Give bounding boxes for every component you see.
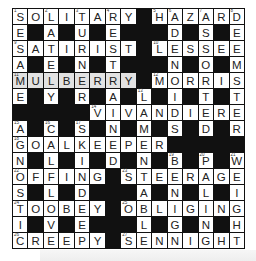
- grid-cell[interactable]: E: [168, 41, 182, 56]
- grid-cell[interactable]: E: [137, 233, 151, 248]
- grid-cell[interactable]: E: [59, 233, 73, 248]
- grid-cell[interactable]: U: [28, 73, 42, 88]
- grid-cell[interactable]: T: [121, 41, 135, 56]
- grid-cell[interactable]: E: [75, 73, 89, 88]
- grid-cell[interactable]: A: [44, 137, 58, 152]
- grid-cell[interactable]: 26C: [13, 233, 27, 248]
- grid-cell[interactable]: 24T: [13, 201, 27, 216]
- grid-cell[interactable]: A: [199, 169, 213, 184]
- grid-cell[interactable]: 18G: [13, 137, 27, 152]
- grid-cell[interactable]: 19B: [168, 153, 182, 168]
- grid-cell[interactable]: B: [137, 201, 151, 216]
- grid-cell[interactable]: 15A: [13, 121, 27, 136]
- grid-cell[interactable]: G: [168, 217, 182, 232]
- grid-cell[interactable]: E: [137, 137, 151, 152]
- grid-cell[interactable]: N: [214, 201, 228, 216]
- grid-cell[interactable]: S: [13, 185, 27, 200]
- grid-cell[interactable]: L: [59, 137, 73, 152]
- grid-cell[interactable]: I: [13, 217, 27, 232]
- grid-cell[interactable]: A: [28, 41, 42, 56]
- grid-cell[interactable]: R: [75, 41, 89, 56]
- grid-cell[interactable]: D: [199, 121, 213, 136]
- grid-cell[interactable]: L: [199, 185, 213, 200]
- grid-cell[interactable]: S: [199, 25, 213, 40]
- grid-cell[interactable]: H: [230, 217, 244, 232]
- grid-cell[interactable]: O: [28, 9, 42, 24]
- grid-cell[interactable]: S: [199, 41, 213, 56]
- grid-cell[interactable]: P: [75, 233, 89, 248]
- grid-cell[interactable]: E: [44, 57, 58, 72]
- grid-cell[interactable]: E: [199, 105, 213, 120]
- grid-cell[interactable]: L: [152, 201, 166, 216]
- grid-cell[interactable]: K: [75, 137, 89, 152]
- grid-cell[interactable]: I: [199, 201, 213, 216]
- grid-cell[interactable]: O: [44, 201, 58, 216]
- grid-cell[interactable]: R: [214, 105, 228, 120]
- grid-cell[interactable]: 12M: [152, 73, 166, 88]
- grid-cell[interactable]: F: [28, 169, 42, 184]
- grid-cell[interactable]: I: [75, 153, 89, 168]
- grid-cell[interactable]: Z: [183, 9, 197, 24]
- grid-cell[interactable]: 16C: [44, 121, 58, 136]
- grid-cell[interactable]: M: [230, 57, 244, 72]
- grid-cell[interactable]: I: [90, 41, 104, 56]
- grid-cell[interactable]: 11M: [13, 73, 27, 88]
- grid-cell[interactable]: S: [168, 121, 182, 136]
- grid-cell[interactable]: O: [168, 73, 182, 88]
- grid-cell[interactable]: 17S: [75, 121, 89, 136]
- grid-cell[interactable]: A: [137, 105, 151, 120]
- grid-cell[interactable]: 6A: [168, 9, 182, 24]
- grid-cell[interactable]: R: [152, 137, 166, 152]
- grid-cell[interactable]: T: [106, 57, 120, 72]
- grid-cell[interactable]: B: [59, 73, 73, 88]
- grid-cell[interactable]: A: [137, 185, 151, 200]
- grid-cell[interactable]: E: [13, 89, 27, 104]
- grid-cell[interactable]: O: [199, 57, 213, 72]
- grid-cell[interactable]: I: [230, 185, 244, 200]
- grid-cell[interactable]: D: [168, 25, 182, 40]
- grid-cell[interactable]: 13L: [137, 89, 151, 104]
- grid-cell[interactable]: O: [28, 201, 42, 216]
- grid-cell[interactable]: Y: [121, 73, 135, 88]
- grid-cell[interactable]: E: [75, 217, 89, 232]
- grid-cell[interactable]: N: [106, 121, 120, 136]
- grid-cell[interactable]: E: [168, 169, 182, 184]
- grid-cell[interactable]: 23S: [121, 169, 135, 184]
- grid-cell[interactable]: N: [152, 233, 166, 248]
- grid-cell[interactable]: I: [59, 41, 73, 56]
- grid-cell[interactable]: F: [44, 169, 58, 184]
- grid-cell[interactable]: I: [59, 9, 73, 24]
- grid-cell[interactable]: 1S: [13, 9, 27, 24]
- grid-cell[interactable]: E: [230, 41, 244, 56]
- grid-cell[interactable]: 20P: [199, 153, 213, 168]
- grid-cell[interactable]: E: [106, 25, 120, 40]
- grid-cell[interactable]: 21W: [230, 153, 244, 168]
- grid-cell[interactable]: V: [44, 217, 58, 232]
- grid-cell[interactable]: E: [106, 137, 120, 152]
- grid-cell[interactable]: T: [199, 89, 213, 104]
- grid-cell[interactable]: G: [214, 169, 228, 184]
- grid-cell[interactable]: Y: [90, 233, 104, 248]
- grid-cell[interactable]: 7A: [199, 9, 213, 24]
- grid-cell[interactable]: 3T: [75, 9, 89, 24]
- grid-cell[interactable]: Y: [121, 9, 135, 24]
- grid-cell[interactable]: N: [13, 153, 27, 168]
- grid-cell[interactable]: R: [183, 73, 197, 88]
- grid-cell[interactable]: S: [230, 73, 244, 88]
- grid-cell[interactable]: 10L: [152, 41, 166, 56]
- grid-cell[interactable]: E: [90, 137, 104, 152]
- grid-cell[interactable]: E: [230, 105, 244, 120]
- grid-cell[interactable]: D: [75, 185, 89, 200]
- grid-cell[interactable]: I: [168, 89, 182, 104]
- grid-cell[interactable]: V: [121, 105, 135, 120]
- grid-cell[interactable]: R: [183, 169, 197, 184]
- grid-cell[interactable]: N: [75, 169, 89, 184]
- grid-cell[interactable]: I: [59, 169, 73, 184]
- grid-cell[interactable]: N: [168, 233, 182, 248]
- grid-cell[interactable]: I: [214, 73, 228, 88]
- grid-cell[interactable]: S: [106, 41, 120, 56]
- grid-cell[interactable]: N: [168, 57, 182, 72]
- grid-cell[interactable]: R: [230, 121, 244, 136]
- grid-cell[interactable]: R: [106, 73, 120, 88]
- grid-cell[interactable]: A: [13, 57, 27, 72]
